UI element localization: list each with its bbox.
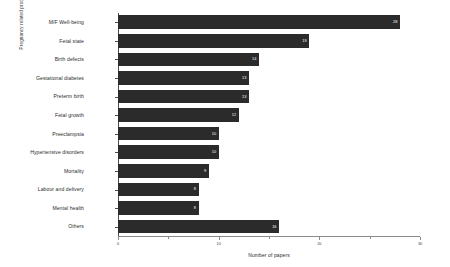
bar: 28	[118, 15, 400, 29]
bar-row: Mental health8	[118, 199, 420, 218]
bar: 19	[118, 34, 309, 48]
bar-track: 13	[118, 71, 420, 85]
category-label: Fetal growth	[0, 112, 84, 118]
x-axis: 0102030 Number of papers	[118, 236, 420, 267]
bar-value-label: 8	[194, 206, 196, 210]
bar-row: Fetal state19	[118, 32, 420, 51]
x-axis-tick	[420, 237, 421, 240]
bar-row: Gestational diabetes13	[118, 69, 420, 88]
x-axis-title: Number of papers	[118, 252, 420, 258]
bar: 9	[118, 164, 209, 178]
bar-value-label: 13	[242, 76, 246, 80]
bar-row: Hypertensive disorders10	[118, 143, 420, 162]
category-label: Others	[0, 223, 84, 229]
bar-track: 10	[118, 127, 420, 141]
category-label: Birth defects	[0, 56, 84, 62]
bar-value-label: 28	[393, 20, 397, 24]
bar-row: Birth defects14	[118, 50, 420, 69]
category-label: Gestational diabetes	[0, 75, 84, 81]
bar-row: Mortality9	[118, 162, 420, 181]
bar-value-label: 10	[212, 150, 216, 154]
x-axis-tick	[319, 237, 320, 240]
bar-row: Preterm birth13	[118, 87, 420, 106]
bar-track: 16	[118, 220, 420, 234]
bar-track: 14	[118, 53, 420, 67]
bar-track: 13	[118, 90, 420, 104]
bar: 13	[118, 71, 249, 85]
category-label: Preeclampsia	[0, 131, 84, 137]
bar-value-label: 10	[212, 132, 216, 136]
category-label: Mortality	[0, 168, 84, 174]
bar-track: 8	[118, 183, 420, 197]
bar: 8	[118, 183, 199, 197]
bar: 10	[118, 127, 219, 141]
bar-row: Fetal growth12	[118, 106, 420, 125]
x-axis-tick-label: 10	[217, 242, 221, 246]
x-axis-tick	[118, 237, 119, 240]
x-axis-tick	[219, 237, 220, 240]
bar: 13	[118, 90, 249, 104]
category-label: Mental health	[0, 205, 84, 211]
bar: 8	[118, 201, 199, 215]
bar: 14	[118, 53, 259, 67]
category-label: Preterm birth	[0, 93, 84, 99]
bar-value-label: 14	[252, 57, 256, 61]
x-axis-tick-label: 20	[317, 242, 321, 246]
bar: 10	[118, 145, 219, 159]
x-axis-tick-label: 30	[418, 242, 422, 246]
plot-area: M/F Well-being28Fetal state19Birth defec…	[118, 13, 420, 236]
bar-track: 19	[118, 34, 420, 48]
x-axis-tick-label: 0	[117, 242, 119, 246]
category-label: Fetal state	[0, 38, 84, 44]
bar-value-label: 9	[204, 169, 206, 173]
x-axis-tick	[168, 237, 169, 239]
bar-track: 9	[118, 164, 420, 178]
bar: 16	[118, 220, 279, 234]
bar-row: Others16	[118, 217, 420, 236]
bar-row: Preeclampsia10	[118, 125, 420, 144]
x-axis-tick	[269, 237, 270, 239]
bar-value-label: 13	[242, 95, 246, 99]
bar-row: Labour and delivery8	[118, 180, 420, 199]
bar-value-label: 8	[194, 187, 196, 191]
bar-row: M/F Well-being28	[118, 13, 420, 32]
bar-value-label: 12	[232, 113, 236, 117]
category-label: M/F Well-being	[0, 19, 84, 25]
x-axis-tick	[370, 237, 371, 239]
bar-track: 10	[118, 145, 420, 159]
bar-track: 12	[118, 108, 420, 122]
category-label: Hypertensive disorders	[0, 149, 84, 155]
bar-track: 8	[118, 201, 420, 215]
bar-value-label: 19	[302, 39, 306, 43]
category-label: Labour and delivery	[0, 186, 84, 192]
bar-chart-figure: Pregnancy related processes M/F Well-bei…	[0, 0, 450, 267]
bar-value-label: 16	[272, 225, 276, 229]
bar: 12	[118, 108, 239, 122]
bar-track: 28	[118, 15, 420, 29]
